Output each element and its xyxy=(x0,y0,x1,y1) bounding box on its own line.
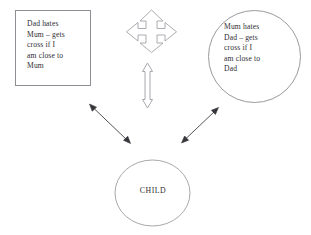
four-way-arrow-target[interactable] xyxy=(117,9,186,54)
mum-circle-node[interactable] xyxy=(208,10,301,103)
dad-child-arrow-target[interactable] xyxy=(86,101,134,145)
child-circle-node[interactable] xyxy=(115,160,191,226)
dad-box-node[interactable] xyxy=(15,10,91,86)
diagram-canvas: Dad hates Mum – gets cross if I am close… xyxy=(0,0,311,235)
up-down-arrow-target[interactable] xyxy=(140,62,156,109)
mum-child-arrow-target[interactable] xyxy=(178,104,224,145)
